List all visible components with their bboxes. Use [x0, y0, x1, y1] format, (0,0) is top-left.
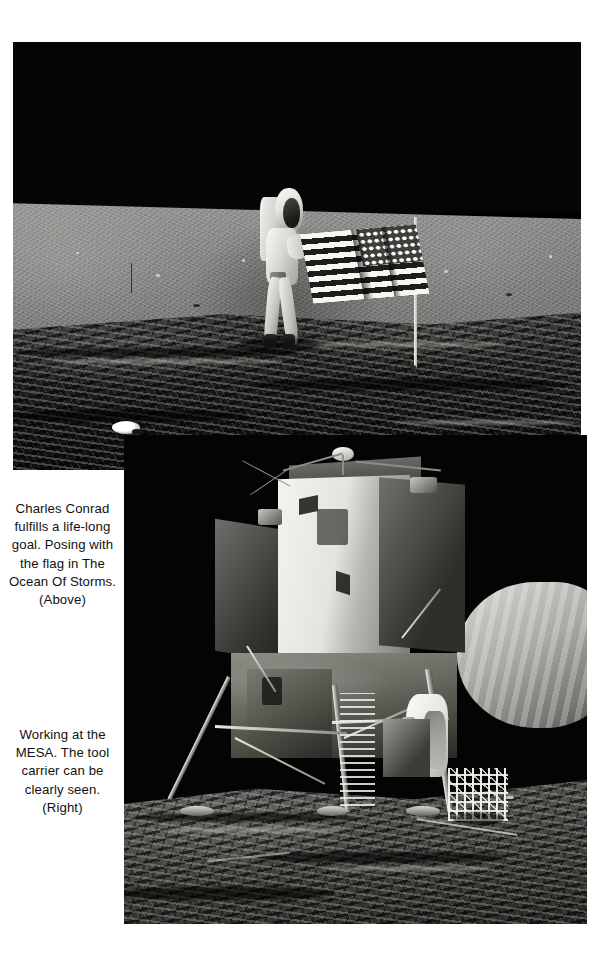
lunar-module-scene [124, 435, 587, 924]
caption-line: the flag in The [2, 555, 123, 573]
caption-line: Charles Conrad [2, 500, 123, 518]
flag-pole-base [410, 365, 416, 369]
lm-ascent-dark-panel [379, 477, 465, 653]
page-root: Charles Conrad fulfills a life-long goal… [0, 0, 612, 957]
lm-descent-panel [247, 669, 333, 757]
lm-rcs-thruster-cluster [410, 477, 437, 493]
lm-rcs-thruster-cluster [258, 509, 281, 525]
caption-line: MESA. The tool [2, 744, 123, 762]
caption-line: clearly seen. [2, 781, 123, 799]
distant-rod [131, 263, 132, 293]
terrain-ridge [248, 379, 567, 389]
lm-footpad [406, 806, 440, 816]
mesa-equipment-bay [383, 719, 429, 778]
lm-landing-leg [168, 676, 231, 800]
lm-footpad [317, 806, 347, 816]
flag-photo-scene [13, 42, 581, 470]
terrain-ridge [255, 852, 505, 863]
caption-line: Ocean Of Storms. [2, 573, 123, 591]
astronaut-visor [283, 198, 300, 227]
caption-line: carrier can be [2, 762, 123, 780]
astronaut-flag-photo [13, 42, 581, 470]
caption-line: goal. Posing with [2, 536, 123, 554]
surface-speck [76, 252, 79, 254]
lm-window [336, 571, 350, 595]
terrain-ridge [297, 342, 506, 347]
lunar-module-photo [124, 435, 587, 924]
terrain-ridge [124, 887, 335, 899]
lm-descent-plate [262, 677, 281, 705]
lm-ladder [340, 693, 375, 805]
surface-speck [549, 255, 552, 258]
terrain-ridge [52, 359, 285, 364]
lm-hatch [317, 509, 348, 545]
surface-speck [506, 293, 512, 296]
united-states-flag [300, 224, 430, 303]
caption-line: Working at the [2, 726, 123, 744]
caption-line: fulfills a life-long [2, 518, 123, 536]
astronaut-conrad [260, 188, 309, 342]
caption-flag-photo: Charles Conrad fulfills a life-long goal… [2, 500, 123, 609]
lm-antenna [342, 455, 344, 475]
caption-lunar-module-photo: Working at the MESA. The tool carrier ca… [2, 726, 123, 817]
surface-speck [242, 259, 245, 262]
lm-footpad [180, 806, 214, 816]
caption-reference: (Right) [2, 799, 123, 817]
caption-reference: (Above) [2, 591, 123, 609]
